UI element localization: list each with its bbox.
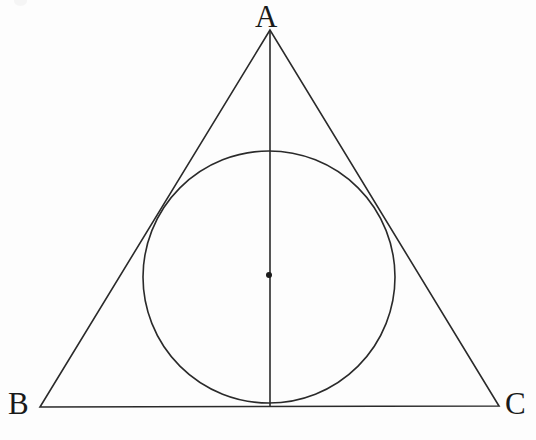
vertex-label-a: A — [255, 1, 277, 32]
incenter-dot — [266, 272, 272, 278]
figure-canvas: A B C — [0, 0, 536, 440]
vertex-label-c: C — [505, 388, 526, 419]
vertex-label-b: B — [8, 388, 29, 419]
geometry-diagram — [0, 0, 536, 440]
